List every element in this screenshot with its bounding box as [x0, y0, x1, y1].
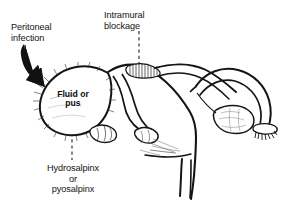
- peritoneal-arrow-icon: [21, 44, 45, 87]
- label-fluid-or-pus: Fluid or pus: [52, 90, 94, 109]
- figure-canvas: Peritoneal infection Intramural blockage…: [0, 0, 301, 213]
- label-intramural-blockage: Intramural blockage: [104, 10, 144, 31]
- right-ovary: [197, 93, 254, 134]
- label-hydrosalpinx-or-pyosalpinx: Hydrosalpinx or pyosalpinx: [18, 163, 128, 195]
- label-peritoneal-infection: Peritoneal infection: [11, 22, 51, 43]
- right-fimbriae: [253, 124, 277, 140]
- clubbed-fimbrial-end: [90, 125, 117, 142]
- left-tube-proximal-segment: [113, 74, 158, 143]
- cervix: [180, 159, 191, 198]
- intramural-segment: [126, 64, 160, 78]
